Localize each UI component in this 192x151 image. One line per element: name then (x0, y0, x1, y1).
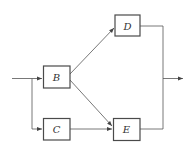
block-c: C (44, 119, 71, 141)
edge-b-e (70, 80, 112, 126)
block-d: D (115, 15, 140, 36)
block-e: E (114, 119, 141, 141)
block-b: B (44, 66, 71, 88)
block-d-label: D (122, 21, 131, 32)
block-e-label: E (122, 124, 131, 135)
edge-d-output (140, 26, 163, 129)
block-b-label: B (52, 72, 60, 83)
edge-b-d (70, 28, 114, 74)
block-c-label: C (53, 124, 61, 135)
block-diagram: B C D E (0, 0, 192, 151)
input-branch-to-c (32, 79, 42, 130)
